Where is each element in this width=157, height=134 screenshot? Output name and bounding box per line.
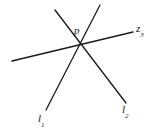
line-z3 [12,32,133,61]
line-label-z3-subscript: 3 [140,31,144,39]
line-label-z3: z3 [136,23,144,37]
line-label-l2-subscript: 2 [125,112,129,120]
point-label-p: p [74,25,80,36]
geometry-figure: p z3 l1 l2 [0,0,157,134]
lines-canvas [0,0,157,134]
line-label-l1: l1 [38,113,45,127]
line-label-l1-subscript: 1 [41,121,45,129]
line-label-l2: l2 [122,104,129,118]
